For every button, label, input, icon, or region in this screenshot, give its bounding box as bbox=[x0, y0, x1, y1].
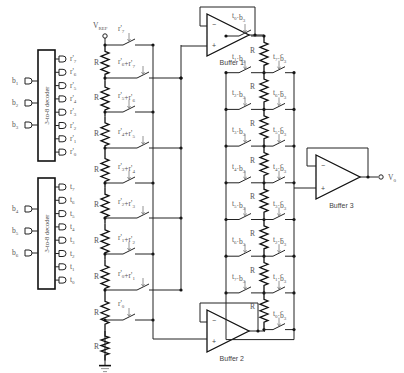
decoder-label: 3-to-8 decoder bbox=[43, 86, 50, 125]
minus-sign: − bbox=[212, 317, 216, 324]
output-label: V0 bbox=[388, 173, 396, 183]
switch-label: t1·b̄3 bbox=[273, 272, 287, 284]
resistor-label: R bbox=[250, 302, 255, 311]
resistor-label: R bbox=[94, 308, 99, 317]
switch-label: t6·b̄3 bbox=[273, 88, 287, 100]
switch bbox=[105, 206, 181, 218]
switch-label: r'0 bbox=[118, 299, 125, 309]
switch-label: t4·b̄3 bbox=[273, 162, 287, 174]
decoder-output-label: r'5 bbox=[70, 81, 77, 91]
decoder-input-label: b4 bbox=[12, 204, 19, 214]
resistor bbox=[260, 36, 268, 72]
minus-sign: − bbox=[212, 21, 216, 28]
switch-label: r'4+r'5 bbox=[118, 127, 135, 139]
decoder-input-label: b3 bbox=[12, 120, 19, 130]
switch-label: t2·b3 bbox=[232, 88, 246, 100]
decoder-input-label: b2 bbox=[12, 98, 19, 108]
resistor-label: R bbox=[250, 192, 255, 201]
decoder-output-label: r'2 bbox=[70, 121, 77, 131]
switch-label: t3·b3 bbox=[232, 125, 246, 137]
resistor-label: R bbox=[94, 93, 99, 102]
switch-label: t6·b3 bbox=[232, 235, 246, 247]
resistor-label: R bbox=[94, 342, 99, 351]
buffer-label: Buffer 3 bbox=[329, 202, 353, 209]
plus-sign: + bbox=[212, 42, 216, 49]
switch-label: r'7 bbox=[118, 24, 125, 34]
resistor-label: R bbox=[94, 236, 99, 245]
decoder-input-label: b5 bbox=[12, 226, 19, 236]
decoder-output-label: t4 bbox=[70, 222, 75, 232]
resistor bbox=[260, 183, 268, 219]
switch bbox=[105, 308, 153, 320]
resistor bbox=[260, 256, 268, 292]
resistor-label: R bbox=[250, 119, 255, 128]
switch-label: r'2+r'3 bbox=[118, 197, 135, 209]
decoder-output-label: r'0 bbox=[70, 147, 77, 157]
resistor-label: R bbox=[94, 58, 99, 67]
resistor bbox=[260, 220, 268, 256]
switch-label: t3·b̄3 bbox=[273, 199, 287, 211]
decoder-output-label: r'3 bbox=[70, 107, 77, 117]
switch bbox=[105, 33, 153, 45]
decoders: 3-to-8 decoderb1b2b3r'7r'6r'5r'4r'3r'2r'… bbox=[12, 50, 77, 289]
decoder-output-label: r'7 bbox=[70, 54, 77, 64]
switch-label: t2·b̄3 bbox=[273, 235, 287, 247]
resistor bbox=[260, 146, 268, 182]
left-ladder: VREFRRRRRRRRRr'7r'6+r'7r'5+r'6r'4+r'5r'3… bbox=[93, 21, 183, 372]
switch-label: r'6+r'7 bbox=[118, 57, 135, 69]
buffer-label: Buffer 2 bbox=[220, 355, 244, 362]
plus-sign: + bbox=[321, 185, 325, 192]
switch-label: t0·b3 bbox=[232, 11, 246, 23]
switch-label: r'5+r'6 bbox=[118, 91, 135, 103]
decoder-output-label: t0 bbox=[70, 275, 75, 285]
resistor bbox=[101, 295, 109, 331]
switch-label: t0·b̄3 bbox=[273, 309, 287, 321]
right-ladder: RRRRRRRRt0·b3t1·b3t2·b3t3·b3t4·b3t5·b3t6… bbox=[224, 11, 396, 340]
buffer-3: −+Buffer 3 bbox=[316, 155, 360, 209]
resistor-label: R bbox=[94, 129, 99, 138]
switch-label: t7·b3 bbox=[232, 272, 246, 284]
resistor-label: R bbox=[94, 165, 99, 174]
resistor-label: R bbox=[250, 156, 255, 165]
switch-label: r'1+r'2 bbox=[118, 233, 135, 245]
resistor-label: R bbox=[250, 229, 255, 238]
switch bbox=[105, 278, 181, 290]
switch-label: t7·b̄3 bbox=[273, 52, 287, 64]
decoder-output-label: t3 bbox=[70, 235, 75, 245]
decoder-input-label: b6 bbox=[12, 248, 19, 258]
decoder-output-label: t5 bbox=[70, 209, 75, 219]
buffer-2: −+Buffer 2 bbox=[207, 310, 249, 362]
switch-label: r'3+r'4 bbox=[118, 162, 135, 174]
dac-schematic: 3-to-8 decoderb1b2b3r'7r'6r'5r'4r'3r'2r'… bbox=[0, 0, 404, 373]
decoder-output-label: t1 bbox=[70, 262, 75, 272]
decoder-output-label: r'1 bbox=[70, 134, 77, 144]
resistor bbox=[260, 109, 268, 145]
plus-sign: + bbox=[212, 338, 216, 345]
resistor-label: R bbox=[250, 266, 255, 275]
resistor-label: R bbox=[250, 82, 255, 91]
resistor-label: R bbox=[250, 46, 255, 55]
switch-label: t5·b3 bbox=[232, 199, 246, 211]
switch bbox=[105, 136, 181, 148]
minus-sign: − bbox=[321, 162, 325, 169]
decoder-output-label: r'4 bbox=[70, 94, 77, 104]
resistor-label: R bbox=[94, 200, 99, 209]
decoder-label: 3-to-8 decoder bbox=[43, 214, 50, 253]
switch-label: r'0+r'1 bbox=[118, 269, 135, 281]
switch-label: t4·b3 bbox=[232, 162, 246, 174]
decoder-2: 3-to-8 decoderb4b5b6t7t6t5t4t3t2t1t0 bbox=[12, 178, 75, 289]
switch bbox=[105, 66, 181, 78]
resistor-label: R bbox=[94, 272, 99, 281]
resistor bbox=[260, 73, 268, 109]
decoder-output-label: t6 bbox=[70, 195, 75, 205]
decoder-output-label: r'6 bbox=[70, 67, 77, 77]
buffers: −+Buffer 1−+Buffer 2−+Buffer 3 bbox=[153, 7, 360, 362]
decoder-1: 3-to-8 decoderb1b2b3r'7r'6r'5r'4r'3r'2r'… bbox=[12, 50, 77, 161]
resistor bbox=[260, 293, 268, 329]
resistor bbox=[101, 45, 109, 81]
decoder-output-label: t7 bbox=[70, 182, 75, 192]
decoder-output-label: t2 bbox=[70, 249, 75, 259]
switch-label: t5·b̄3 bbox=[273, 125, 287, 137]
decoder-input-label: b1 bbox=[12, 76, 19, 86]
vref-label: VREF bbox=[93, 21, 108, 31]
